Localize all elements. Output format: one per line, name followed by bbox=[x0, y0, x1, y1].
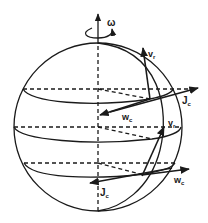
rotating-sphere-diagram: ω vr Jc wc vr wc Jc bbox=[0, 0, 208, 223]
jc-bottom-arrow bbox=[90, 168, 172, 183]
label-vr-top: vr bbox=[148, 49, 156, 60]
lower-radius-dashed bbox=[98, 163, 144, 175]
label-vr-mid: vr bbox=[168, 118, 176, 129]
label-jc-bottom: Jc bbox=[100, 187, 110, 199]
label-omega: ω bbox=[107, 17, 116, 28]
rotation-curl-icon bbox=[85, 28, 112, 38]
label-jc-top: Jc bbox=[182, 95, 192, 107]
label-wc-bottom: wc bbox=[173, 175, 185, 186]
label-wc-top: wc bbox=[121, 112, 133, 123]
equator-radius-dashed bbox=[98, 127, 152, 139]
upper-radius-dashed bbox=[98, 89, 150, 99]
